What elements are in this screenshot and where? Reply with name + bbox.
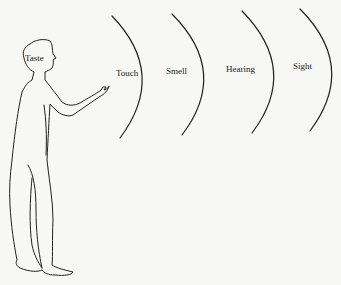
diagram-artwork — [0, 0, 341, 285]
label-touch: Touch — [116, 68, 138, 78]
arm-inner-outline — [44, 105, 46, 155]
label-sight: Sight — [293, 61, 312, 71]
diagram-canvas: Taste Touch Smell Hearing Sight — [0, 0, 341, 285]
label-hearing: Hearing — [226, 64, 255, 74]
human-figure-outline — [10, 40, 109, 276]
label-smell: Smell — [166, 66, 187, 76]
label-taste: Taste — [25, 53, 44, 63]
